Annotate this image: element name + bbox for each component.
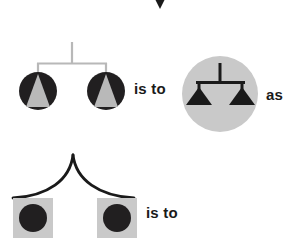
black-circle-with-gray-triangle [87, 72, 125, 110]
as-label: as [266, 86, 283, 103]
mobile-a-group [19, 42, 125, 110]
gray-square-with-black-circle [13, 198, 53, 238]
mobile-b-curved-arms [13, 155, 134, 198]
partial-diamond-fragment [151, 0, 169, 9]
black-circle-with-gray-triangle [19, 72, 57, 110]
is-to-label-first: is to [134, 80, 166, 97]
gray-square-with-black-circle [97, 198, 137, 238]
mobile-a-frame [37, 42, 107, 74]
gray-disc-with-black-balance-scale [182, 56, 258, 132]
is-to-label-second: is to [146, 204, 178, 221]
mobile-b-group [13, 155, 137, 238]
